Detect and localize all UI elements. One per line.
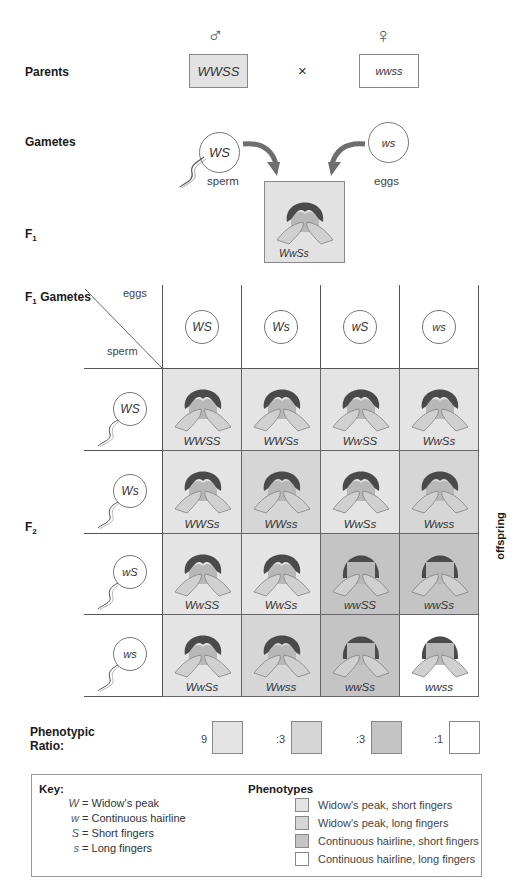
punnett-square: WWSSWWSsWwSSWwSsWWSsWWssWwSsWwssWwSSWwSs… bbox=[163, 369, 479, 697]
offspring-genotype: WWSS bbox=[163, 435, 241, 447]
offspring-genotype: WwSS bbox=[163, 599, 241, 611]
egg-gamete-ws: ws bbox=[422, 310, 456, 344]
face-continuous-hairline-icon bbox=[408, 621, 472, 681]
offspring-cell: WwSs bbox=[163, 615, 242, 697]
grid-line bbox=[399, 285, 400, 368]
egg-gamete-wS: wS bbox=[343, 310, 377, 344]
offspring-cell: WwSS bbox=[321, 369, 400, 451]
offspring-cell: WWSS bbox=[163, 369, 242, 451]
phenotype-label: Widow's peak, long fingers bbox=[318, 817, 449, 829]
face-continuous-hairline-icon bbox=[329, 621, 393, 681]
allele-meaning: = Short fingers bbox=[82, 827, 154, 839]
f1-label: F1 bbox=[25, 227, 37, 243]
face-widows-peak-icon bbox=[250, 540, 314, 600]
phenotype-legend-item: Continuous hairline, long fingers bbox=[295, 850, 479, 868]
offspring-cell: WWSs bbox=[163, 451, 242, 534]
offspring-genotype: WWSs bbox=[242, 435, 320, 447]
face-widows-peak-icon bbox=[329, 375, 393, 435]
offspring-genotype: WwSS bbox=[321, 435, 399, 447]
male-parent-genotype-box: WWSS bbox=[189, 54, 248, 88]
allele-symbol: S bbox=[67, 826, 79, 841]
allele-item: w = Continuous hairline bbox=[67, 811, 186, 826]
allele-meaning: = Continuous hairline bbox=[82, 812, 186, 824]
offspring-genotype: Wwss bbox=[400, 518, 478, 530]
allele-item: S = Short fingers bbox=[67, 826, 186, 841]
offspring-cell: wwSs bbox=[321, 615, 400, 697]
male-symbol-icon: ♂ bbox=[207, 25, 224, 47]
offspring-genotype: WwSs bbox=[400, 435, 478, 447]
offspring-label: offspring bbox=[494, 506, 506, 566]
egg-arrow-icon bbox=[323, 138, 368, 183]
ratio-swatch-2 bbox=[291, 721, 322, 754]
phenotype-label: Widow's peak, short fingers bbox=[318, 799, 452, 811]
allele-symbol: w bbox=[67, 811, 79, 826]
f1-gametes-title: F1 Gametes bbox=[25, 290, 91, 306]
phenotypes-title: Phenotypes bbox=[248, 783, 313, 795]
offspring-cell: WwSs bbox=[321, 451, 400, 534]
allele-meaning: = Long fingers bbox=[82, 842, 152, 854]
phenotype-swatch bbox=[295, 798, 309, 812]
face-widows-peak-icon bbox=[250, 621, 314, 681]
egg-gamete-WS: WS bbox=[185, 310, 219, 344]
phenotype-swatch bbox=[295, 816, 309, 830]
offspring-cell: wwSS bbox=[321, 534, 400, 615]
f2-label: F2 bbox=[25, 520, 37, 536]
grid-line bbox=[320, 285, 321, 368]
ratio-value-3: :3 bbox=[356, 733, 365, 745]
phenotype-legend-item: Continuous hairline, short fingers bbox=[295, 832, 479, 850]
phenotype-legend: Widow's peak, short fingersWidow's peak,… bbox=[295, 796, 479, 868]
offspring-genotype: WwSs bbox=[163, 681, 241, 693]
allele-item: s = Long fingers bbox=[67, 841, 186, 856]
key-title: Key: bbox=[39, 783, 64, 795]
face-widows-peak-icon bbox=[171, 540, 235, 600]
allele-symbol: W bbox=[67, 796, 79, 811]
f1-offspring-box: WwSs bbox=[264, 181, 345, 263]
face-continuous-hairline-icon bbox=[329, 540, 393, 600]
face-widows-peak-icon bbox=[273, 188, 337, 248]
sperm-tail-icon bbox=[96, 500, 126, 530]
gametes-label: Gametes bbox=[25, 135, 76, 149]
offspring-genotype: WwSs bbox=[321, 518, 399, 530]
ratio-value-4: :1 bbox=[434, 733, 443, 745]
offspring-genotype: WwSs bbox=[242, 599, 320, 611]
allele-meaning: = Widow's peak bbox=[82, 797, 159, 809]
offspring-genotype: wwSs bbox=[400, 599, 478, 611]
face-widows-peak-icon bbox=[171, 621, 235, 681]
ratio-value-1: 9 bbox=[201, 733, 207, 745]
diagonal-divider bbox=[85, 287, 165, 370]
phenotype-legend-item: Widow's peak, short fingers bbox=[295, 796, 479, 814]
offspring-cell: WWSs bbox=[242, 369, 321, 451]
eggs-label: eggs bbox=[374, 175, 399, 187]
face-widows-peak-icon bbox=[408, 375, 472, 435]
ratio-swatch-1 bbox=[212, 721, 243, 754]
offspring-cell: Wwss bbox=[400, 451, 479, 534]
offspring-cell: WwSs bbox=[400, 369, 479, 451]
allele-symbol: s bbox=[67, 841, 79, 856]
sperm-tail-icon bbox=[96, 581, 126, 611]
grid-line bbox=[241, 285, 242, 368]
sperm-tail-icon bbox=[96, 663, 126, 693]
offspring-genotype: WWss bbox=[242, 518, 320, 530]
face-continuous-hairline-icon bbox=[408, 540, 472, 600]
f1-genotype: WwSs bbox=[279, 247, 309, 259]
phenotypic-ratio-label: Phenotypic Ratio: bbox=[30, 725, 95, 753]
egg-gamete-circle: ws bbox=[368, 122, 409, 163]
allele-item: W = Widow's peak bbox=[67, 796, 186, 811]
phenotype-legend-item: Widow's peak, long fingers bbox=[295, 814, 479, 832]
allele-list: W = Widow's peakw = Continuous hairlineS… bbox=[67, 796, 186, 856]
phenotype-label: Continuous hairline, long fingers bbox=[318, 853, 475, 865]
face-widows-peak-icon bbox=[329, 457, 393, 517]
offspring-genotype: Wwss bbox=[242, 681, 320, 693]
offspring-cell: WwSS bbox=[163, 534, 242, 615]
offspring-cell: Wwss bbox=[242, 615, 321, 697]
offspring-cell: wwSs bbox=[400, 534, 479, 615]
parents-label: Parents bbox=[25, 65, 69, 79]
offspring-genotype: wwSS bbox=[321, 599, 399, 611]
cross-symbol: × bbox=[298, 62, 307, 79]
offspring-genotype: wwSs bbox=[321, 681, 399, 693]
offspring-cell: WwSs bbox=[242, 534, 321, 615]
female-symbol-icon: ♀ bbox=[375, 25, 392, 47]
sperm-label: sperm bbox=[207, 175, 239, 187]
ratio-swatch-4 bbox=[449, 721, 480, 754]
face-widows-peak-icon bbox=[250, 375, 314, 435]
